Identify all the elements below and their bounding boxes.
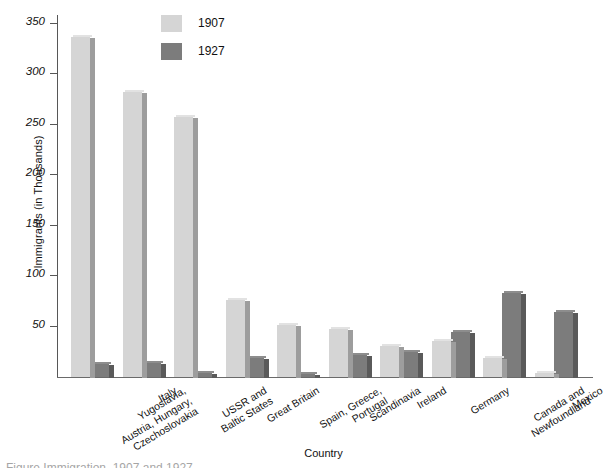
bar-side: [367, 356, 372, 378]
x-axis-line: [57, 377, 593, 378]
bar-rect: [123, 92, 142, 377]
bar-face: [432, 341, 451, 377]
bar-side: [399, 347, 404, 378]
y-tick-350: 350: [50, 23, 58, 24]
bar-top: [176, 115, 195, 117]
bar-rect: [277, 325, 296, 377]
bar-side: [109, 365, 114, 378]
bar-group: [432, 12, 484, 377]
bar-rect: [174, 117, 193, 377]
plot-area: 50100150200250300350 Yugoslavia,Austria,…: [57, 12, 593, 378]
y-tick-150: 150: [50, 225, 58, 226]
bar-rect: [483, 358, 502, 377]
bar-face: [329, 329, 348, 377]
legend-label: 1927: [198, 44, 225, 58]
bar-side: [502, 359, 507, 378]
x-tick-label-line: Germany: [468, 384, 511, 417]
x-axis-title-text: Country: [304, 447, 343, 459]
bar-side: [573, 313, 578, 378]
bar-group: [535, 12, 587, 377]
bar-side: [315, 375, 320, 378]
bar-group: [226, 12, 278, 377]
x-tick-label-line: Ireland: [415, 384, 449, 411]
y-tick-label: 150: [26, 217, 45, 229]
bar-top: [279, 323, 298, 325]
bar-group: [123, 12, 175, 377]
bar-top: [434, 339, 453, 341]
bar-top: [537, 371, 556, 373]
bar-side: [296, 326, 301, 378]
y-tick-label: 200: [26, 166, 45, 178]
bar-face: [174, 117, 193, 377]
y-tick-label: 100: [26, 267, 45, 279]
bar-side: [212, 374, 217, 378]
bar-face: [226, 300, 245, 377]
bar-side: [521, 294, 526, 378]
bar-top: [453, 330, 472, 332]
y-tick-label: 300: [26, 65, 45, 77]
bar-side: [142, 93, 147, 378]
bar-side: [161, 364, 166, 378]
bar-side: [90, 38, 95, 378]
bar-top: [556, 310, 575, 312]
bar-face: [535, 373, 554, 377]
bar-face: [71, 37, 90, 377]
x-axis-title: Country: [0, 447, 601, 459]
bar-rect: [226, 300, 245, 377]
bar-face: [380, 346, 399, 377]
bar-side: [245, 301, 250, 378]
bar-top: [504, 291, 523, 293]
bar-top: [125, 90, 144, 92]
bar-rect: [71, 37, 90, 377]
y-axis-line: [57, 15, 58, 378]
x-tick-label: USSR andBaltic States: [212, 384, 274, 435]
bar-rect: [554, 312, 573, 377]
y-tick-250: 250: [50, 124, 58, 125]
y-tick-label: 50: [32, 318, 45, 330]
bar-group: [277, 12, 329, 377]
bar-face: [554, 312, 573, 377]
bar-face: [123, 92, 142, 377]
y-tick-50: 50: [50, 326, 58, 327]
bar-rect: [329, 329, 348, 377]
x-tick-label: Germany: [468, 384, 511, 417]
bar-rect: [432, 341, 451, 377]
bar-rect: [380, 346, 399, 377]
bar-side: [451, 342, 456, 378]
y-tick-label: 250: [26, 116, 45, 128]
x-tick-label: Ireland: [415, 384, 449, 411]
bar-group: [174, 12, 226, 377]
bar-side: [554, 374, 559, 378]
bar-group: [483, 12, 535, 377]
bar-side: [264, 359, 269, 378]
y-tick-300: 300: [50, 73, 58, 74]
y-axis-title: Immigrants (in Thousands): [32, 112, 44, 292]
bar-top: [228, 298, 247, 300]
bar-face: [277, 325, 296, 377]
bar-top: [485, 356, 504, 358]
y-tick-200: 200: [50, 174, 58, 175]
bar-top: [73, 35, 92, 37]
y-tick-label: 350: [26, 15, 45, 27]
figure-caption: Figure Immigration, 1907 and 1927: [6, 461, 446, 468]
legend-label: 1907: [198, 16, 225, 30]
y-tick-100: 100: [50, 275, 58, 276]
dark-gray-swatch-icon: [161, 43, 182, 60]
bar-top: [331, 327, 350, 329]
bar-side: [470, 333, 475, 378]
bar-face: [483, 358, 502, 377]
bar-side: [418, 353, 423, 378]
bar-top: [382, 344, 401, 346]
bar-group: [380, 12, 432, 377]
bar-side: [193, 118, 198, 378]
bar-group: [329, 12, 381, 377]
bar-rect: [535, 373, 554, 377]
light-gray-swatch-icon: [161, 15, 182, 32]
bar-side: [348, 330, 353, 378]
bar-group: [71, 12, 123, 377]
